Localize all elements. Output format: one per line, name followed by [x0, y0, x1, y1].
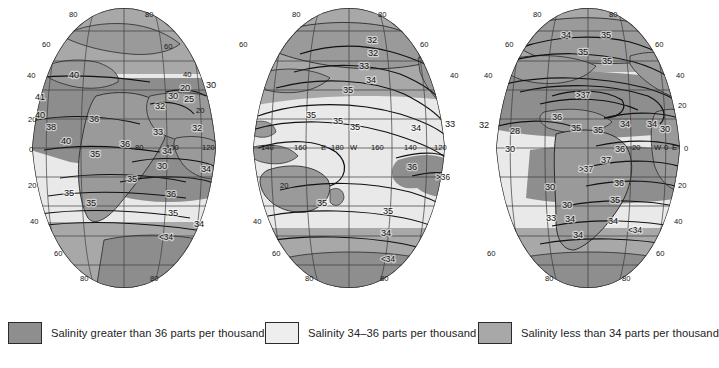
contour-label: 32	[479, 120, 489, 130]
world-map: 80 80 60 60 40 40 20 20 0 20 40 60 80 80…	[0, 0, 698, 300]
contour-label: 36	[615, 144, 625, 154]
contour-label: 34	[565, 214, 575, 224]
contour-label: 34	[201, 164, 211, 174]
grat-label: 80	[380, 274, 388, 283]
grat-label: 60	[655, 40, 663, 49]
contour-label: 30	[505, 144, 515, 154]
grat-label: 60	[54, 249, 62, 258]
grat-label: 40	[183, 70, 191, 79]
grat-label: 0	[29, 145, 33, 154]
contour-label: 35	[127, 174, 137, 184]
lobe-center: 80 80 60 60 40 20 40 60 60 80 80 140 160…	[239, 0, 495, 300]
grat-lon-label: 20	[632, 143, 640, 152]
contour-label: 35	[90, 149, 100, 159]
contour-label: 34	[366, 75, 376, 85]
contour-label: <34	[381, 255, 395, 264]
grat-label: 60	[656, 249, 664, 258]
grat-label: 0	[684, 144, 688, 153]
contour-label: 35	[86, 198, 96, 208]
contour-label: 35	[317, 198, 327, 208]
contour-label: 34	[620, 119, 630, 129]
contour-label: 32	[368, 48, 378, 58]
contour-label: 32	[367, 35, 377, 45]
grat-lon-label: 120	[202, 143, 215, 152]
map-legend: Salinity greater than 36 parts per thous…	[0, 300, 698, 368]
legend-item-high-salinity: Salinity greater than 36 parts per thous…	[8, 322, 265, 344]
grat-lon-label: 0	[664, 143, 668, 152]
grat-label: 80	[533, 10, 541, 19]
contour-label: 35	[168, 208, 178, 218]
contour-label: 30	[157, 161, 167, 171]
contour-label: 30	[660, 124, 670, 134]
contour-label: 32	[155, 101, 165, 111]
contour-label: <34	[628, 226, 642, 235]
contour-label: 40	[61, 136, 71, 146]
grat-lon-label: E	[321, 143, 326, 152]
legend-swatch-high-salinity	[8, 322, 42, 344]
contour-label: 34	[647, 119, 657, 129]
contour-label: 35	[350, 122, 360, 132]
grat-label: 20	[678, 181, 686, 190]
grat-lon-label: E	[672, 143, 677, 152]
contour-label: 33	[445, 119, 455, 129]
contour-label: 35	[383, 206, 393, 216]
contour-label: 36	[614, 178, 624, 188]
grat-lon-label: W	[350, 143, 358, 152]
contour-label: 35	[610, 195, 620, 205]
grat-label: 80	[145, 10, 153, 19]
grat-label: 80	[378, 10, 386, 19]
grat-lon-label: W	[654, 143, 662, 152]
contour-label: 36	[89, 114, 99, 124]
grat-label: 80	[150, 274, 158, 283]
contour-label: 35	[343, 85, 353, 95]
legend-item-low-salinity: Salinity less than 34 parts per thousand	[478, 322, 719, 344]
contour-label: 35	[602, 56, 612, 66]
grat-label: 40	[253, 217, 261, 226]
contour-label: 35	[64, 188, 74, 198]
legend-label-low-salinity: Salinity less than 34 parts per thousand	[521, 327, 719, 340]
contour-label: 36	[166, 189, 176, 199]
contour-label: 36	[552, 112, 562, 122]
contour-label: 40	[35, 110, 45, 120]
grat-label: 40	[27, 71, 35, 80]
grat-label: 60	[164, 42, 172, 51]
legend-label-mid-salinity: Salinity 34–36 parts per thousand	[308, 327, 476, 340]
grat-label: 60	[487, 249, 495, 258]
grat-label: 80	[305, 274, 313, 283]
contour-label: 30	[206, 80, 216, 90]
grat-label: 40	[30, 217, 38, 226]
contour-label: 41	[35, 92, 45, 102]
grat-label: 20	[28, 181, 36, 190]
contour-label: 28	[510, 126, 520, 136]
contour-label: 34	[573, 230, 583, 240]
grat-label: 80	[622, 274, 630, 283]
contour-label: <34	[159, 233, 173, 242]
grat-label: 80	[545, 274, 553, 283]
grat-lon-label: 140	[404, 143, 417, 152]
contour-label: 36	[407, 162, 417, 172]
grat-lon-label: 160	[294, 143, 307, 152]
contour-label: 30	[168, 91, 178, 101]
grat-lon-label: 140	[261, 143, 274, 152]
contour-label: 32	[192, 123, 202, 133]
grat-label: 60	[272, 249, 280, 258]
contour-label: 33	[359, 61, 369, 71]
map-canvas: 80 80 60 60 40 40 20 20 0 20 40 60 80 80…	[0, 0, 698, 300]
contour-label: 30	[562, 200, 572, 210]
contour-label: 34	[194, 219, 204, 229]
contour-label: 33	[546, 213, 556, 223]
grat-label: 80	[69, 10, 77, 19]
contour-label: >37	[576, 91, 590, 100]
grat-label: 60	[239, 40, 247, 49]
grat-label: 80	[292, 10, 300, 19]
grat-lon-label: 160	[371, 143, 384, 152]
grat-label: 60	[505, 40, 513, 49]
contour-label: 35	[306, 110, 316, 120]
contour-label: >37	[579, 165, 593, 174]
grat-label: 60	[42, 40, 50, 49]
contour-label: 35	[571, 123, 581, 133]
grat-label: 40	[450, 71, 458, 80]
grat-label: 80	[609, 10, 617, 19]
grat-label: 40	[674, 217, 682, 226]
